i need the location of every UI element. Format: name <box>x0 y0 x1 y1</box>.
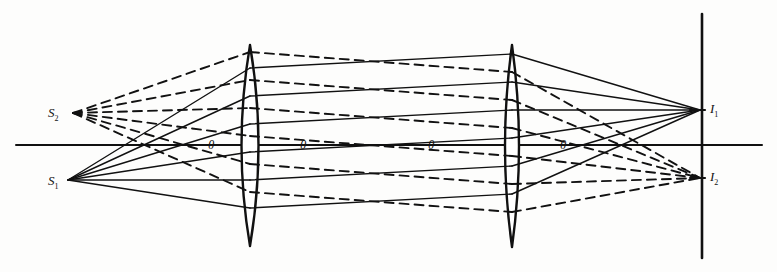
label-source-2: S2 <box>48 106 59 123</box>
ray-solid-mid-0 <box>250 54 512 68</box>
ray-dashed-mid-0 <box>250 52 512 72</box>
angle-theta-2: θ <box>300 138 306 151</box>
ray-dashed-in-3 <box>73 113 250 136</box>
ray-solid-mid-2 <box>250 110 512 124</box>
ray-dashed-in-2 <box>73 108 250 113</box>
ray-dashed-in-0 <box>73 52 250 113</box>
ray-dashed-mid-1 <box>250 80 512 100</box>
ray-solid-mid-4 <box>250 166 512 180</box>
ray-solid-mid-5 <box>250 194 512 208</box>
ray-solid-out-0 <box>512 54 700 110</box>
ray-solid-mid-1 <box>250 82 512 96</box>
ray-solid-out-1 <box>512 82 700 110</box>
lens-1[interactable] <box>242 45 259 246</box>
ray-dashed-out-0 <box>512 72 700 178</box>
ray-solid-in-5 <box>68 180 250 208</box>
ray-dashed-mid-5 <box>250 192 512 212</box>
ray-dashed-out-5 <box>512 178 700 212</box>
angle-theta-4: θ <box>560 138 566 151</box>
label-source-1: S1 <box>48 174 59 191</box>
ray-dashed-in-4 <box>73 113 250 164</box>
ray-solid-out-4 <box>512 110 700 166</box>
label-image-1: I1 <box>710 102 718 119</box>
ray-dashed-out-2 <box>512 128 700 178</box>
figure-canvas: S2 S1 I1 I2 θ θ θ θ <box>0 0 777 272</box>
ray-dashed-mid-2 <box>250 108 512 128</box>
label-image-2: I2 <box>710 170 718 187</box>
ray-dashed-mid-4 <box>250 164 512 184</box>
ray-diagram-svg <box>0 0 777 272</box>
angle-theta-1: θ <box>208 138 214 151</box>
angle-theta-3: θ <box>428 138 434 151</box>
